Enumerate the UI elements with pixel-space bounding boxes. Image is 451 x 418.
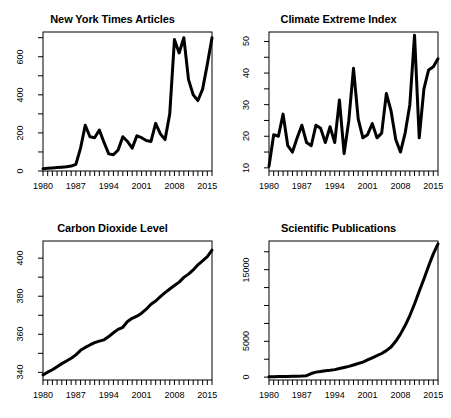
y-axis-tick-label: 600 — [14, 42, 26, 72]
x-axis-tick-label: 1987 — [292, 181, 312, 191]
x-axis-tick-label: 1994 — [325, 181, 345, 191]
panel-new-york-times-articles: New York Times Articles 0200400600198019… — [0, 0, 225, 209]
plot-canvas — [226, 0, 451, 209]
multi-panel-figure: New York Times Articles 0200400600198019… — [0, 0, 451, 418]
x-axis-tick-label: 1980 — [33, 181, 53, 191]
y-axis-ticks — [38, 258, 43, 372]
y-axis-ticks — [264, 252, 269, 377]
x-axis-tick-label: 1994 — [325, 390, 345, 400]
y-axis-tick-label: 400 — [14, 80, 26, 110]
y-axis-tick-label: 10 — [240, 153, 252, 183]
x-axis-tick-label: 1980 — [33, 390, 53, 400]
plot-canvas — [0, 0, 225, 209]
x-axis-tick-label: 2015 — [197, 390, 217, 400]
x-axis-tick-label: 1980 — [259, 390, 279, 400]
y-axis-tick-label: 200 — [14, 118, 26, 148]
x-axis-ticks — [269, 171, 438, 176]
x-axis-tick-label: 1987 — [66, 181, 86, 191]
plot-canvas — [226, 209, 451, 418]
x-axis-tick-label: 2008 — [390, 390, 410, 400]
y-axis-tick-label: 0 — [14, 156, 26, 186]
x-axis-tick-label: 2001 — [132, 390, 152, 400]
x-axis-ticks — [43, 380, 212, 385]
y-axis-tick-label: 380 — [14, 281, 26, 311]
x-axis-tick-label: 2001 — [358, 181, 378, 191]
y-axis-ticks — [38, 38, 43, 171]
x-axis-tick-label: 2008 — [164, 390, 184, 400]
y-axis-tick-label: 40 — [240, 58, 252, 88]
panel-scientific-publications: Scientific Publications 0500015000198019… — [226, 209, 451, 418]
plot-canvas — [0, 209, 225, 418]
x-axis-ticks — [269, 380, 438, 385]
x-axis-tick-label: 2001 — [358, 390, 378, 400]
x-axis-tick-label: 1987 — [292, 390, 312, 400]
y-axis-tick-label: 400 — [14, 243, 26, 273]
x-axis-tick-label: 1994 — [99, 390, 119, 400]
y-axis-tick-label: 5000 — [240, 326, 252, 356]
y-axis-tick-label: 360 — [14, 319, 26, 349]
y-axis-tick-label: 20 — [240, 121, 252, 151]
panel-climate-extreme-index: Climate Extreme Index 102030405019801987… — [226, 0, 451, 209]
x-axis-tick-label: 2015 — [197, 181, 217, 191]
x-axis-tick-label: 2008 — [164, 181, 184, 191]
x-axis-tick-label: 2001 — [132, 181, 152, 191]
x-axis-tick-label: 2015 — [423, 390, 443, 400]
x-axis-tick-label: 1980 — [259, 181, 279, 191]
y-axis-tick-label: 340 — [14, 357, 26, 387]
panel-carbon-dioxide-level: Carbon Dioxide Level 3403603804001980198… — [0, 209, 225, 418]
x-axis-tick-label: 1994 — [99, 181, 119, 191]
y-axis-tick-label: 0 — [240, 362, 252, 392]
x-axis-ticks — [43, 171, 212, 176]
x-axis-tick-label: 2008 — [390, 181, 410, 191]
y-axis-ticks — [264, 41, 269, 167]
x-axis-tick-label: 2015 — [423, 181, 443, 191]
y-axis-tick-label: 50 — [240, 26, 252, 56]
y-axis-tick-label: 30 — [240, 90, 252, 120]
x-axis-tick-label: 1987 — [66, 390, 86, 400]
y-axis-tick-label: 15000 — [240, 255, 252, 285]
